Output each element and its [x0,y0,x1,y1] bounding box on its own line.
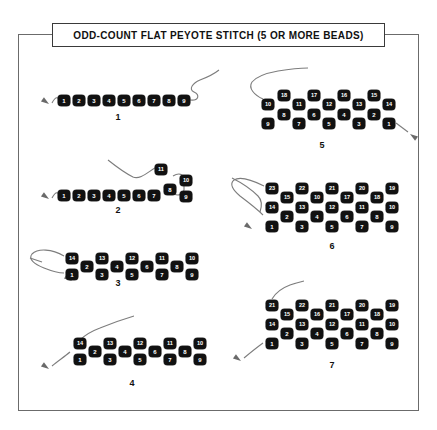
title-plaque: ODD-COUNT FLAT PEYOTE STITCH (5 OR MORE … [52,23,385,47]
page-root: ODD-COUNT FLAT PEYOTE STITCH (5 OR MORE … [0,0,437,430]
outer-frame [18,34,419,411]
page-title: ODD-COUNT FLAT PEYOTE STITCH (5 OR MORE … [73,30,363,41]
